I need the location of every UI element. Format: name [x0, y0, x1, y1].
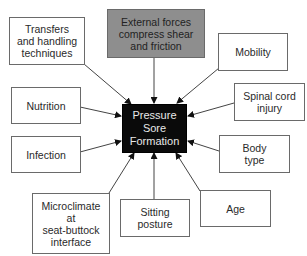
arrow-body-type [188, 141, 219, 151]
factor-label: Body type [243, 142, 267, 166]
factor-label: Infection [26, 149, 66, 161]
factor-infection-box: Infection [11, 136, 81, 173]
arrow-transfers [84, 64, 131, 104]
arrow-nutrition [80, 107, 121, 116]
factor-label: Nutrition [26, 100, 65, 112]
arrow-spinal-cord-injury [188, 103, 234, 116]
arrow-mobility [177, 68, 219, 103]
factor-nutrition-box: Nutrition [11, 87, 81, 124]
arrow-infection [80, 141, 121, 152]
factor-transfers-box: Transfers and handling techniques [9, 17, 85, 65]
center-pressure-sore-formation: Pressure Sore Formation [122, 104, 187, 153]
factor-label: Sitting posture [137, 206, 172, 230]
factor-label: Spinal cord injury [243, 90, 296, 114]
factor-label: Transfers and handling techniques [17, 23, 77, 59]
factor-microclimate-box: Microclimate at seat-buttock interface [32, 193, 110, 254]
center-label: Pressure Sore Formation [130, 109, 180, 148]
factor-label: Age [226, 203, 245, 215]
factor-age-box: Age [200, 190, 271, 227]
arrow-microclimate [109, 153, 134, 193]
factor-external-forces-box: External forces compress shear and frict… [107, 9, 205, 58]
factor-label: External forces compress shear and frict… [119, 16, 194, 52]
factor-body-type-box: Body type [219, 135, 290, 173]
factor-label: Microclimate at seat-buttock interface [42, 200, 101, 248]
factor-sitting-posture-box: Sitting posture [120, 199, 190, 237]
factor-mobility-box: Mobility [218, 33, 288, 71]
factor-label: Mobility [235, 46, 271, 58]
arrow-age [176, 153, 200, 191]
factor-spinal-cord-injury-box: Spinal cord injury [234, 83, 305, 121]
